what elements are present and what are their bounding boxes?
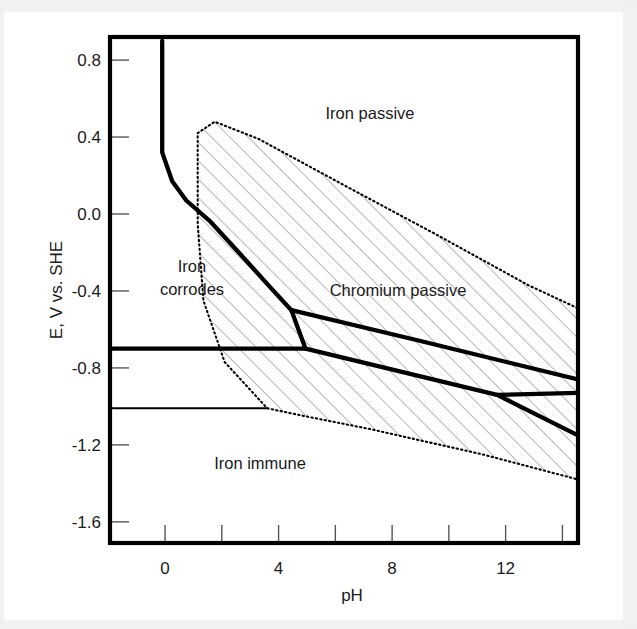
chromium-passive-hatch-fill [198, 122, 578, 480]
y-tick-label: -0.8 [72, 359, 101, 378]
region-label-iron-immune: Iron immune [214, 454, 306, 472]
pourbaix-diagram-figure: 0.80.40.0-0.4-0.8-1.2-1.6 04812 E, V vs.… [0, 0, 637, 629]
region-label-chromium-passive: Chromium passive [330, 281, 467, 299]
region-label-iron-corrodes-line1: Iron [178, 257, 206, 275]
y-tick-label: 0.4 [77, 128, 101, 147]
x-axis-ticks [165, 525, 562, 541]
x-tick-label: 12 [496, 559, 515, 578]
y-tick-label: 0.8 [77, 51, 101, 70]
region-label-iron-passive: Iron passive [326, 104, 415, 122]
y-tick-label: 0.0 [77, 205, 101, 224]
x-tick-label: 4 [274, 559, 283, 578]
x-axis-tick-labels: 04812 [160, 559, 515, 578]
x-tick-label: 8 [387, 559, 396, 578]
y-axis-tick-labels: 0.80.40.0-0.4-0.8-1.2-1.6 [72, 51, 101, 532]
region-label-iron-corrodes-line2: corrodes [160, 280, 224, 298]
y-tick-label: -1.2 [72, 436, 101, 455]
y-tick-label: -0.4 [72, 282, 101, 301]
y-tick-label: -1.6 [72, 513, 101, 532]
y-axis-ticks [112, 60, 129, 522]
x-axis-title: pH [341, 586, 363, 605]
chromium-passive-region [198, 122, 578, 480]
curve-cr-lower-branch-fork [497, 393, 578, 395]
y-axis-title: E, V vs. SHE [47, 241, 66, 339]
x-tick-label: 0 [160, 559, 169, 578]
